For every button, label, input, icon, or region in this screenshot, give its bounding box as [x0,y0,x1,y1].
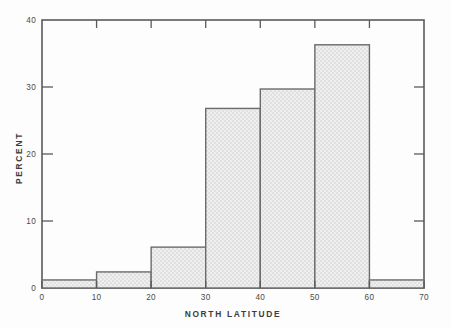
y-tick-label-40: 40 [26,16,36,25]
x-tick-label-50: 50 [310,293,320,302]
y-tick-label-20: 20 [26,150,36,159]
x-tick-label-60: 60 [365,293,375,302]
y-axis-title: PERCENT [14,132,24,184]
x-ticks-top [97,20,370,28]
y-tick-label-0: 0 [31,284,36,293]
bar-40-50 [260,89,315,288]
x-tick-label-10: 10 [92,293,102,302]
x-tick-label-20: 20 [146,293,156,302]
bar-50-60 [315,45,370,288]
x-tick-labels: 0 10 20 30 40 50 60 70 [40,293,429,302]
x-axis-title: NORTH LATITUDE [185,309,282,319]
x-tick-label-40: 40 [255,293,265,302]
y-ticks-right [414,87,424,221]
x-tick-label-30: 30 [201,293,211,302]
y-ticks-left [42,87,53,221]
bar-20-30 [151,247,206,288]
bar-30-40 [206,108,261,288]
x-tick-label-0: 0 [40,293,45,302]
histogram-figure: 0 10 20 30 40 50 60 70 0 10 20 30 40 NOR… [0,0,451,328]
y-tick-labels: 0 10 20 30 40 [26,16,36,293]
bars-group [42,45,424,288]
y-tick-label-10: 10 [26,217,36,226]
bar-0-10 [42,280,97,288]
y-tick-label-30: 30 [26,83,36,92]
chart-canvas: 0 10 20 30 40 50 60 70 0 10 20 30 40 NOR… [0,0,451,328]
bar-10-20 [97,272,152,288]
bar-60-70 [369,280,424,288]
x-tick-label-70: 70 [419,293,429,302]
